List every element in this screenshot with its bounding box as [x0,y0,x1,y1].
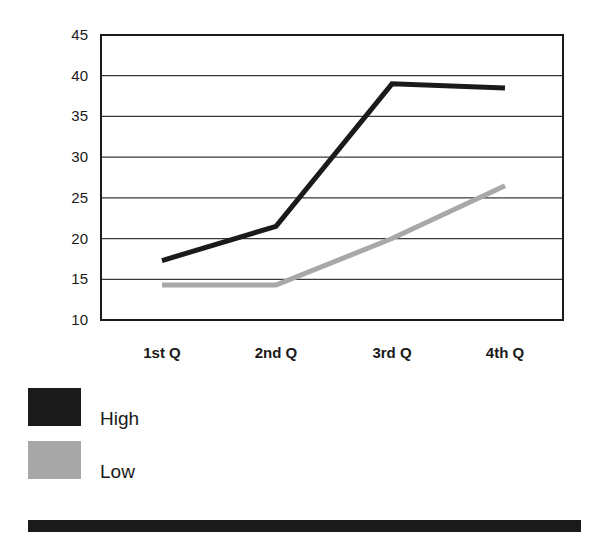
legend-item-low: Low [28,441,328,481]
y-tick-label: 15 [71,270,88,287]
y-tick-label: 30 [71,148,88,165]
y-axis-ticks: 1015202530354045 [71,26,88,328]
y-tick-label: 10 [71,311,88,328]
series-line-low [162,186,505,285]
x-tick-label: 3rd Q [372,344,412,361]
legend-swatch-low [28,441,81,479]
legend-label-high: High [100,408,139,430]
y-tick-label: 40 [71,67,88,84]
y-tick-label: 20 [71,230,88,247]
y-tick-label: 35 [71,107,88,124]
gridlines [101,76,563,280]
divider-rule [28,520,581,532]
legend-swatch-high [28,388,81,426]
y-tick-label: 25 [71,189,88,206]
x-tick-label: 2nd Q [255,344,298,361]
line-chart: 1015202530354045 1st Q2nd Q3rd Q4th Q [0,0,595,380]
legend-label-low: Low [100,461,135,483]
series-line-high [162,84,505,261]
y-tick-label: 45 [71,26,88,43]
x-tick-label: 4th Q [486,344,525,361]
legend-item-high: High [28,388,328,428]
plot-frame [101,35,563,320]
series-lines [162,84,505,285]
x-axis-ticks: 1st Q2nd Q3rd Q4th Q [143,344,524,361]
x-tick-label: 1st Q [143,344,181,361]
